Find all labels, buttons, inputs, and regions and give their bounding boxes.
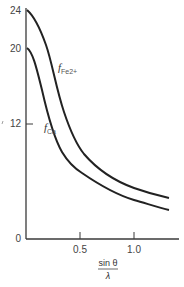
label-ca-sub: Ca: [47, 128, 56, 135]
x-axis-label-denominator: λ: [105, 271, 110, 281]
x-axis-label-numerator: sin θ: [98, 258, 117, 268]
label-fe2plus: fFe2+: [58, 61, 77, 75]
label-fe2plus-sub: Fe2+: [61, 68, 77, 75]
x-tick-label-1.0: 1.0: [127, 244, 141, 255]
curve-fe2plus: [27, 10, 169, 198]
x-tick-label-0.5: 0.5: [73, 244, 87, 255]
y-tick-label-0: 0: [15, 233, 21, 244]
y-tick-label-12: 12: [10, 118, 22, 129]
y-tick-label-24: 24: [10, 5, 22, 16]
y-axis-mark: [2, 121, 3, 124]
chart: 24 20 12 0 0.5 1.0 sin θ λ fFe2+ fCa: [0, 0, 184, 287]
y-tick-label-20: 20: [10, 43, 22, 54]
